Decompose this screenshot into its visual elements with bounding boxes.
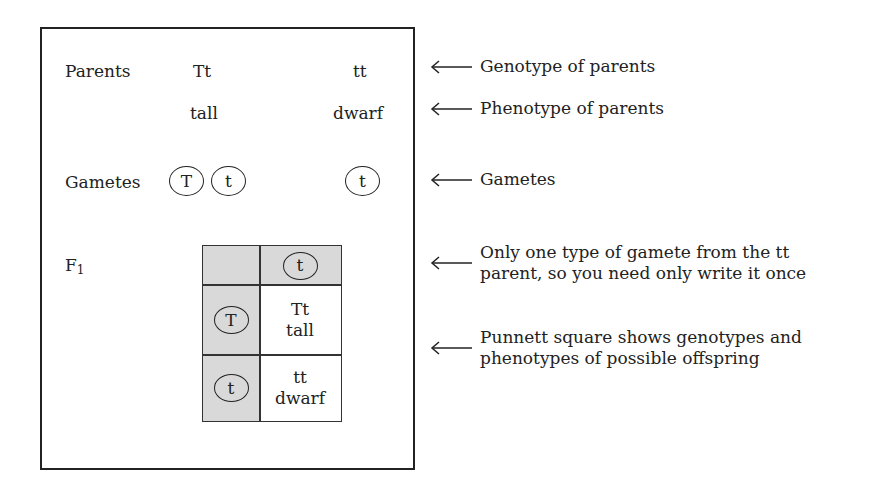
left-arrow-icon: [430, 99, 474, 119]
f1-subscript: 1: [77, 263, 85, 277]
offspring-phenotype: dwarf: [275, 388, 325, 409]
annotation-text: Genotype of parents: [480, 56, 655, 77]
row-header-cell-2: t: [203, 355, 259, 421]
offspring-cell-2: tt dwarf: [259, 355, 341, 421]
left-arrow-icon: [430, 57, 474, 77]
right-parent-genotype: tt: [353, 61, 367, 81]
gametes-label: Gametes: [65, 172, 141, 192]
annotation-genotype: Genotype of parents: [430, 56, 655, 77]
gamete-allele: T: [181, 171, 192, 191]
gamete-circle: t: [214, 374, 249, 402]
right-parent-phenotype: dwarf: [333, 103, 383, 123]
f1-label-text: F: [65, 255, 77, 275]
gamete-circle-t-right: t: [345, 166, 380, 196]
gamete-circle: t: [283, 252, 318, 280]
gamete-circle-T: T: [169, 166, 204, 196]
annotation-line: parent, so you need only write it once: [480, 263, 806, 284]
corner-cell: [203, 246, 259, 285]
annotation-gametes: Gametes: [430, 169, 556, 190]
gamete-allele: t: [225, 171, 232, 191]
annotation-text: Phenotype of parents: [480, 98, 664, 119]
left-arrow-icon: [430, 338, 474, 358]
column-header-cell: t: [259, 246, 341, 285]
offspring-genotype: Tt: [291, 299, 309, 320]
grid-divider: [203, 354, 341, 356]
parents-label: Parents: [65, 61, 131, 81]
gamete-circle-t: t: [211, 166, 246, 196]
left-arrow-icon: [430, 170, 474, 190]
gamete-circle: T: [214, 306, 249, 334]
offspring-genotype: tt: [293, 367, 307, 388]
annotation-line: Only one type of gamete from the tt: [480, 242, 806, 263]
row-header-cell-1: T: [203, 285, 259, 355]
annotation-line: phenotypes of possible offspring: [480, 348, 802, 369]
offspring-cell-1: Tt tall: [259, 285, 341, 355]
gamete-allele: t: [359, 171, 366, 191]
annotation-line: Punnett square shows genotypes and: [480, 327, 802, 348]
left-parent-phenotype: tall: [190, 103, 218, 123]
left-arrow-icon: [430, 253, 474, 273]
annotation-phenotype: Phenotype of parents: [430, 98, 664, 119]
allele: T: [225, 310, 236, 331]
grid-divider: [203, 284, 341, 286]
annotation-text: Punnett square shows genotypes and pheno…: [480, 327, 802, 369]
annotation-text: Only one type of gamete from the tt pare…: [480, 242, 806, 284]
grid-divider: [259, 246, 261, 421]
f1-label: F1: [65, 255, 84, 280]
allele: t: [297, 255, 304, 276]
offspring-phenotype: tall: [286, 320, 314, 341]
annotation-one-gamete: Only one type of gamete from the tt pare…: [430, 242, 806, 284]
annotation-text: Gametes: [480, 169, 556, 190]
allele: t: [228, 378, 235, 399]
punnett-square: t T Tt tall t tt dwarf: [202, 245, 342, 422]
left-parent-genotype: Tt: [193, 61, 211, 81]
annotation-punnett: Punnett square shows genotypes and pheno…: [430, 327, 802, 369]
